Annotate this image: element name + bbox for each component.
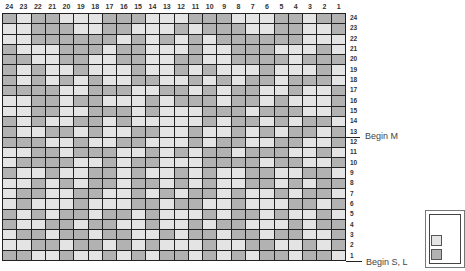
chart-cell-dark bbox=[260, 168, 274, 178]
chart-cell-light bbox=[146, 189, 160, 199]
chart-cell-light bbox=[260, 96, 274, 106]
chart-cell-light bbox=[117, 65, 131, 75]
chart-cell-light bbox=[175, 240, 189, 250]
chart-cell-dark bbox=[303, 199, 317, 209]
chart-cell-dark bbox=[260, 240, 274, 250]
chart-cell-light bbox=[289, 240, 303, 250]
chart-cell-dark bbox=[74, 117, 88, 127]
chart-cell-dark bbox=[74, 230, 88, 240]
column-number: 13 bbox=[160, 2, 174, 12]
chart-cell-light bbox=[3, 96, 17, 106]
chart-cell-dark bbox=[246, 168, 260, 178]
chart-cell-light bbox=[203, 138, 217, 148]
chart-cell-dark bbox=[146, 76, 160, 86]
chart-cell-light bbox=[303, 35, 317, 45]
chart-cell-dark bbox=[246, 240, 260, 250]
chart-cell-light bbox=[260, 220, 274, 230]
chart-cell-dark bbox=[60, 76, 74, 86]
chart-cell-dark bbox=[317, 65, 331, 75]
column-number: 21 bbox=[45, 2, 59, 12]
chart-cell-light bbox=[217, 55, 231, 65]
chart-cell-light bbox=[332, 76, 346, 86]
chart-cell-dark bbox=[132, 168, 146, 178]
chart-cell-dark bbox=[103, 251, 117, 261]
chart-cell-light bbox=[117, 35, 131, 45]
chart-cell-dark bbox=[46, 168, 60, 178]
chart-cell-light bbox=[317, 35, 331, 45]
chart-cell-dark bbox=[175, 55, 189, 65]
chart-cell-light bbox=[275, 240, 289, 250]
chart-cell-dark bbox=[260, 65, 274, 75]
chart-cell-dark bbox=[32, 24, 46, 34]
chart-cell-light bbox=[203, 45, 217, 55]
chart-cell-dark bbox=[132, 127, 146, 137]
chart-cell-dark bbox=[232, 138, 246, 148]
chart-cell-light bbox=[17, 35, 31, 45]
chart-cell-dark bbox=[317, 189, 331, 199]
chart-cell-light bbox=[60, 14, 74, 24]
begin-s-l-label: Begin S, L bbox=[366, 257, 408, 267]
chart-cell-light bbox=[89, 55, 103, 65]
chart-cell-dark bbox=[175, 148, 189, 158]
chart-cell-light bbox=[60, 189, 74, 199]
chart-cell-dark bbox=[275, 96, 289, 106]
chart-cell-dark bbox=[132, 55, 146, 65]
chart-cell-light bbox=[332, 45, 346, 55]
chart-cell-dark bbox=[289, 107, 303, 117]
chart-cell-light bbox=[74, 86, 88, 96]
chart-cell-dark bbox=[289, 14, 303, 24]
chart-cell-dark bbox=[246, 117, 260, 127]
chart-cell-dark bbox=[46, 158, 60, 168]
chart-cell-dark bbox=[303, 168, 317, 178]
chart-cell-light bbox=[17, 107, 31, 117]
chart-cell-light bbox=[175, 220, 189, 230]
chart-cell-dark bbox=[3, 168, 17, 178]
row-number: 16 bbox=[350, 96, 357, 106]
column-number: 4 bbox=[289, 2, 303, 12]
chart-cell-light bbox=[332, 148, 346, 158]
row-number: 23 bbox=[350, 23, 357, 33]
chart-cell-dark bbox=[103, 179, 117, 189]
chart-cell-light bbox=[46, 65, 60, 75]
chart-cell-dark bbox=[232, 117, 246, 127]
chart-cell-dark bbox=[232, 230, 246, 240]
chart-cell-light bbox=[189, 24, 203, 34]
column-number: 11 bbox=[188, 2, 202, 12]
chart-cell-light bbox=[17, 14, 31, 24]
chart-cell-dark bbox=[74, 138, 88, 148]
chart-cell-light bbox=[317, 24, 331, 34]
chart-cell-dark bbox=[232, 127, 246, 137]
chart-cell-dark bbox=[103, 107, 117, 117]
chart-cell-dark bbox=[89, 35, 103, 45]
chart-cell-dark bbox=[175, 86, 189, 96]
column-number: 9 bbox=[217, 2, 231, 12]
chart-cell-dark bbox=[332, 230, 346, 240]
chart-cell-light bbox=[17, 65, 31, 75]
chart-cell-light bbox=[146, 65, 160, 75]
chart-cell-light bbox=[46, 76, 60, 86]
chart-cell-dark bbox=[32, 189, 46, 199]
chart-cell-light bbox=[46, 189, 60, 199]
chart-cell-light bbox=[46, 199, 60, 209]
row-number: 3 bbox=[350, 230, 357, 240]
chart-cell-dark bbox=[146, 107, 160, 117]
chart-cell-dark bbox=[217, 107, 231, 117]
chart-cell-light bbox=[217, 199, 231, 209]
chart-cell-light bbox=[260, 199, 274, 209]
chart-cell-dark bbox=[74, 148, 88, 158]
chart-cell-dark bbox=[189, 189, 203, 199]
chart-cell-dark bbox=[289, 179, 303, 189]
chart-cell-light bbox=[3, 199, 17, 209]
chart-cell-dark bbox=[189, 35, 203, 45]
chart-cell-dark bbox=[275, 55, 289, 65]
legend-swatch-dark bbox=[431, 249, 442, 260]
column-number: 20 bbox=[59, 2, 73, 12]
chart-cell-dark bbox=[117, 240, 131, 250]
chart-cell-dark bbox=[146, 158, 160, 168]
chart-cell-light bbox=[60, 240, 74, 250]
chart-cell-light bbox=[175, 117, 189, 127]
chart-cell-light bbox=[303, 86, 317, 96]
column-number: 7 bbox=[246, 2, 260, 12]
chart-cell-light bbox=[232, 179, 246, 189]
chart-cell-dark bbox=[189, 220, 203, 230]
